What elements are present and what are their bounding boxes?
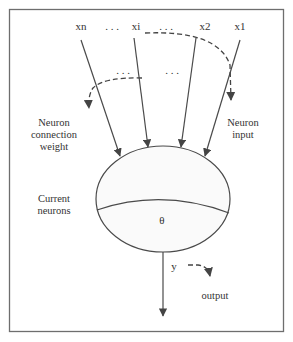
neuron-diagram: xn . . . xi . . . x2 x1 . . . . . . Neur…: [0, 0, 293, 342]
input-label-xn: xn: [76, 20, 88, 32]
input-line-x2: [181, 38, 196, 147]
connection-weight-dashed-arrow: [89, 78, 142, 108]
current-neurons-label-1: Current: [38, 193, 70, 204]
connection-weight-label-1: Neuron: [38, 117, 70, 128]
input-line-xi: [134, 38, 148, 147]
ellipsis-top-right: . . .: [159, 20, 173, 32]
input-line-xn: [81, 40, 120, 156]
connection-weight-label-2: connection: [31, 129, 78, 140]
output-var-label: y: [171, 260, 177, 272]
connection-weight-label-3: weight: [40, 141, 69, 152]
ellipsis-mid-right: . . .: [165, 64, 179, 76]
neuron-input-label-1: Neuron: [227, 117, 259, 128]
input-label-x2: x2: [200, 20, 211, 32]
ellipsis-mid-left: . . .: [116, 64, 130, 76]
threshold-symbol: θ: [159, 214, 164, 226]
input-label-x1: x1: [235, 20, 246, 32]
neuron-input-label-2: input: [232, 129, 254, 140]
current-neurons-label-2: neurons: [37, 205, 70, 216]
output-label: output: [202, 290, 229, 301]
neuron-body: [96, 146, 230, 252]
input-label-xi: xi: [132, 20, 141, 32]
ellipsis-top-left: . . .: [105, 20, 119, 32]
output-dashed-arrow: [188, 265, 210, 276]
neuron-input-dashed-arrow: [145, 33, 231, 100]
